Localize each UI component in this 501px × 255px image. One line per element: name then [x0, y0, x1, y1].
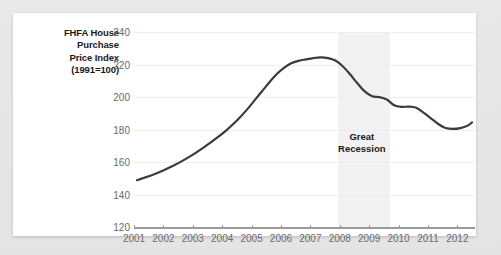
- x-axis-tick-label: 2001: [123, 233, 145, 244]
- y-axis-title-line-2: Purchase: [19, 39, 119, 51]
- x-axis-tick-label: 2004: [211, 233, 233, 244]
- y-axis-title-line-1: FHFA House: [19, 27, 119, 39]
- plot-area: 120140160180200220240 200120022003200420…: [134, 32, 475, 229]
- x-axis-tick-label: 2011: [417, 233, 439, 244]
- x-axis-tick-label: 2005: [240, 233, 262, 244]
- chart-card: FHFA House Purchase Price Index (1991=10…: [13, 13, 476, 236]
- y-axis-tick-label: 240: [113, 27, 130, 38]
- y-axis-title-line-4: (1991=100): [19, 64, 119, 76]
- series-line-chart: [134, 32, 475, 229]
- x-axis-tick-label: 2008: [329, 233, 351, 244]
- x-axis-tick-label: 2012: [446, 233, 468, 244]
- y-axis-tick-label: 200: [113, 92, 130, 103]
- chart-screenshot: FHFA House Purchase Price Index (1991=10…: [0, 0, 501, 255]
- y-axis-tick-label: 140: [113, 189, 130, 200]
- x-axis-tick-label: 2009: [358, 233, 380, 244]
- x-axis-tick-label: 2003: [182, 233, 204, 244]
- y-axis-tick-label: 160: [113, 157, 130, 168]
- y-axis-tick-label: 120: [113, 222, 130, 233]
- y-axis-title: FHFA House Purchase Price Index (1991=10…: [19, 27, 119, 76]
- x-axis-tick-label: 2002: [152, 233, 174, 244]
- y-axis-title-line-3: Price Index: [19, 52, 119, 64]
- x-axis-tick-label: 2007: [299, 233, 321, 244]
- x-axis-tick-label: 2006: [270, 233, 292, 244]
- series-line: [137, 57, 472, 180]
- y-axis-tick-label: 180: [113, 124, 130, 135]
- y-axis-tick-label: 220: [113, 59, 130, 70]
- x-axis-tick-label: 2010: [387, 233, 409, 244]
